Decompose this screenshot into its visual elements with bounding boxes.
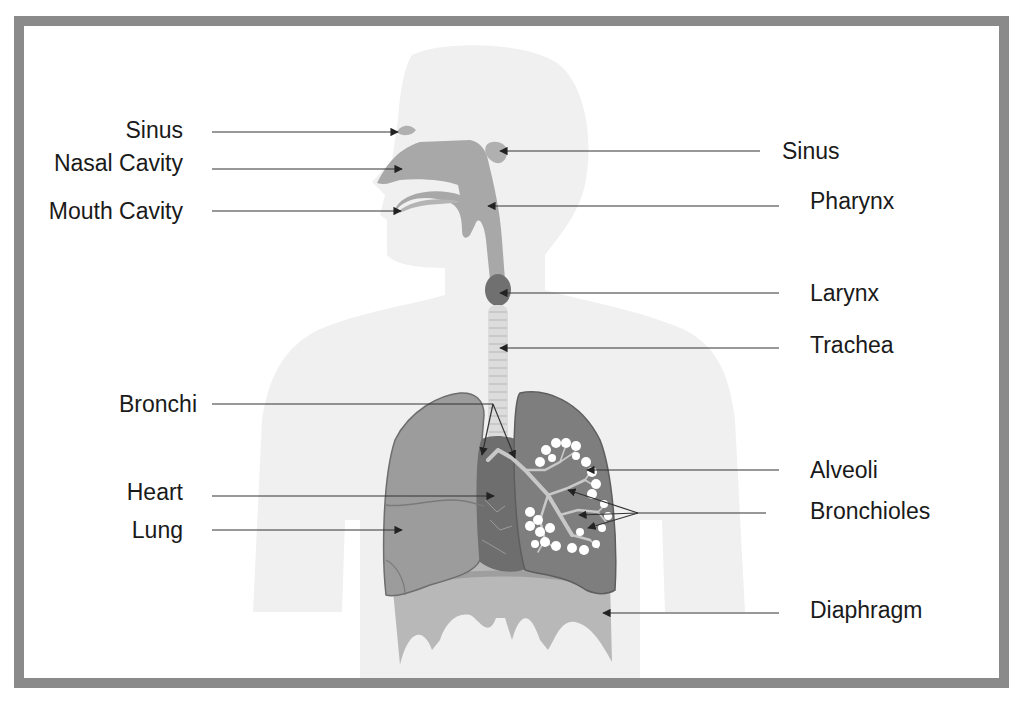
trachea-shape: [488, 305, 508, 450]
label-sinus-left: Sinus: [125, 119, 183, 142]
larynx-shape: [485, 274, 511, 306]
label-bronchioles: Bronchioles: [810, 500, 930, 523]
label-diaphragm: Diaphragm: [810, 599, 923, 622]
label-bronchi: Bronchi: [119, 393, 197, 416]
label-heart: Heart: [127, 481, 183, 504]
label-pharynx: Pharynx: [810, 190, 894, 213]
label-trachea: Trachea: [810, 334, 894, 357]
label-larynx: Larynx: [810, 282, 879, 305]
label-lung: Lung: [132, 519, 183, 542]
label-nasal-cavity: Nasal Cavity: [54, 152, 183, 175]
label-sinus-right: Sinus: [782, 140, 840, 163]
label-alveoli: Alveoli: [810, 459, 878, 482]
label-mouth-cavity: Mouth Cavity: [49, 200, 183, 223]
